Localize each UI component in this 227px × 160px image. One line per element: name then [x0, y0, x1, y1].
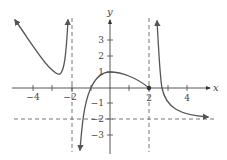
y-tick-label: 2: [98, 51, 104, 61]
y-tick-label: 3: [98, 35, 104, 45]
x-tick-label: 4: [184, 93, 190, 103]
y-tick-labels: 3 2 1 −1 −2 −3: [91, 35, 105, 140]
y-tick-label: −1: [91, 98, 104, 108]
x-axis-label: x: [213, 82, 219, 93]
curve-left-branch: [15, 20, 68, 74]
y-tick-label: −3: [91, 130, 105, 140]
asymptotes: [14, 18, 214, 152]
curve-right-branch: [157, 21, 208, 117]
closed-endpoint-2-0: [147, 86, 151, 90]
function-curves: [15, 20, 208, 150]
x-tick-label: 2: [146, 93, 152, 103]
x-tick-label: −4: [26, 92, 40, 102]
x-tick-label: −2: [63, 92, 76, 102]
y-tick-label: −2: [91, 114, 104, 124]
y-tick-label: 1: [98, 67, 104, 77]
function-graph: −4 −2 2 4 3 2 1 −1 −2 −3 y x: [0, 0, 227, 160]
y-axis-label: y: [106, 6, 113, 17]
